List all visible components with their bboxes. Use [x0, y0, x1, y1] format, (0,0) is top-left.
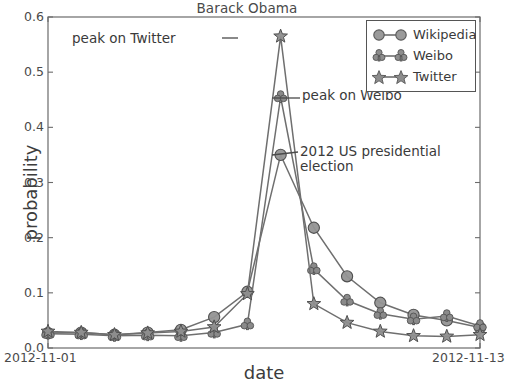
annotation-peak-twitter: peak on Twitter	[72, 31, 176, 46]
club-marker-icon	[372, 47, 408, 65]
annotation-us-election: 2012 US presidential election	[300, 144, 441, 174]
series-wikipedia	[42, 149, 485, 340]
legend-item-wikipedia: Wikipedia	[372, 24, 470, 45]
chart-legend: Wikipedia Weibo Twitter	[366, 20, 476, 92]
legend-label-wikipedia: Wikipedia	[408, 27, 476, 42]
legend-item-twitter: Twitter	[372, 66, 470, 87]
star-marker-icon	[372, 68, 408, 86]
legend-label-weibo: Weibo	[408, 48, 453, 63]
legend-label-twitter: Twitter	[408, 69, 457, 84]
series-weibo	[42, 91, 487, 342]
legend-item-weibo: Weibo	[372, 45, 470, 66]
circle-marker-icon	[372, 26, 408, 44]
